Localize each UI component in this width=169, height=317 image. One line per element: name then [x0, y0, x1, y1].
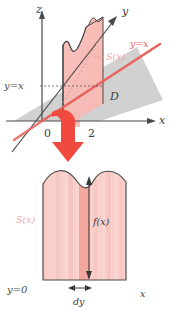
fx-arrowhead-top — [86, 176, 92, 185]
height-label-fx: f(x) — [92, 216, 110, 227]
slice-Sx-side-face — [86, 17, 103, 114]
slice-label-Sx: S(x) — [106, 51, 126, 62]
figure-root: z y x 0 2 y=x y=x D S(x) — [0, 0, 169, 317]
axis-y-arrowhead — [108, 16, 117, 26]
dy-arrowhead-right — [85, 285, 92, 291]
guide-label-y-equals-x: y=x — [3, 80, 24, 91]
axis-label-x-bottom: x — [140, 288, 146, 299]
width-label-dy: dy — [73, 296, 85, 307]
baseline-label-y-equals-0: y=0 — [6, 284, 28, 295]
area-label-Sx: S(x) — [16, 214, 36, 225]
region-label-D: D — [109, 90, 119, 103]
line-label-y-equals-x: y=x — [129, 38, 149, 49]
dy-arrowhead-left — [68, 285, 75, 291]
axis-y-label: y — [121, 5, 129, 18]
bottom-panel-cross-section: S(x) f(x) dy y=0 x — [0, 162, 169, 317]
axis-z-label: z — [35, 3, 42, 16]
projection-arrow-group — [0, 106, 169, 166]
down-arrow-icon — [52, 110, 84, 162]
